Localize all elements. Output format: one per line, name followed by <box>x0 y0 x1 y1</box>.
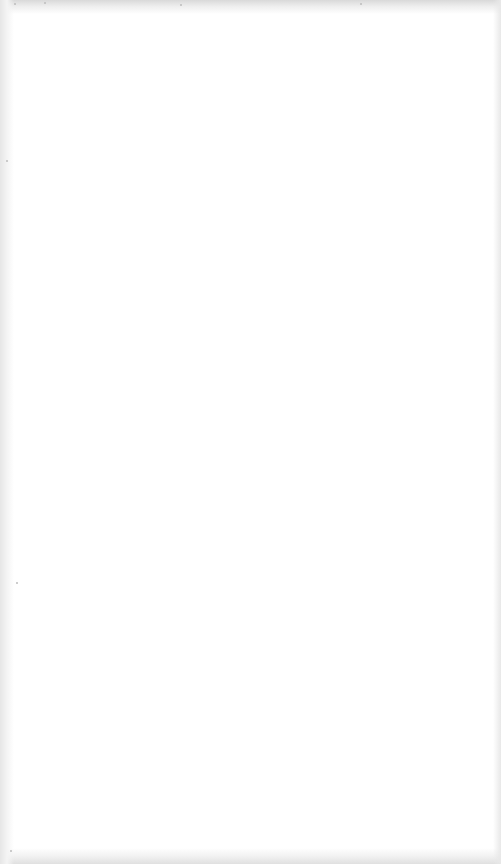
scan-noise-speck <box>16 582 18 584</box>
scan-noise-speck <box>360 3 362 5</box>
blank-document-page <box>0 0 501 864</box>
scan-edge-top <box>0 0 501 14</box>
scan-edge-bottom <box>0 848 501 864</box>
scan-noise-speck <box>44 2 46 4</box>
scan-noise-speck <box>10 850 12 852</box>
scan-noise-speck <box>180 4 182 6</box>
scan-edge-left <box>0 0 14 864</box>
scan-edge-right <box>493 0 501 864</box>
scan-noise-speck <box>6 160 8 162</box>
scan-noise-speck <box>14 3 16 5</box>
